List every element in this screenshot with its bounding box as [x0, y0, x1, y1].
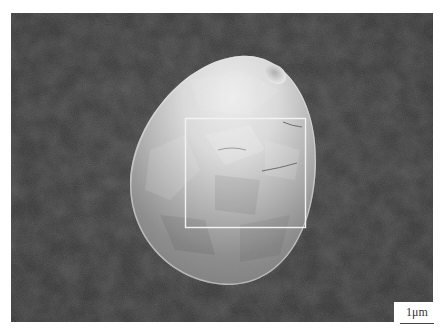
scale-bar-label: 1μm — [398, 305, 436, 320]
sem-micrograph — [0, 0, 446, 335]
scale-bar — [400, 323, 434, 324]
sem-figure: 1μm — [0, 0, 446, 335]
